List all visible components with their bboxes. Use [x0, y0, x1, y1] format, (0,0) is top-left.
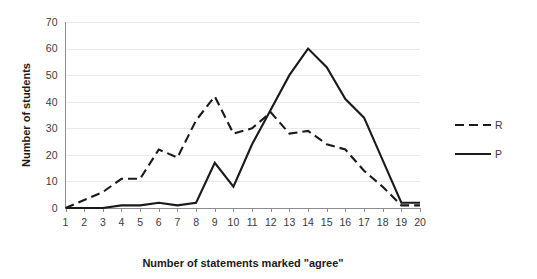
x-tick-label: 12 [265, 216, 277, 228]
x-tick-label: 2 [81, 216, 87, 228]
x-tick-label: 19 [395, 216, 407, 228]
x-tick-label: 10 [228, 216, 240, 228]
y-tick-label: 60 [46, 42, 58, 54]
chart-container: 010203040506070 123456789101112131415161… [0, 0, 537, 279]
chart-background [0, 0, 537, 279]
y-tick-label: 70 [46, 16, 58, 28]
y-tick-label: 30 [46, 122, 58, 134]
x-tick-label: 4 [119, 216, 125, 228]
y-axis-title: Number of students [20, 63, 32, 167]
y-tick-label: 10 [46, 175, 58, 187]
x-tick-label: 13 [284, 216, 296, 228]
legend-label-r: R [495, 119, 503, 131]
y-tick-label: 20 [46, 149, 58, 161]
x-tick-label: 15 [321, 216, 333, 228]
x-tick-label: 9 [212, 216, 218, 228]
y-tick-label: 0 [52, 202, 58, 214]
y-tick-label: 40 [46, 96, 58, 108]
legend-label-p: P [495, 148, 502, 160]
x-tick-label: 20 [414, 216, 426, 228]
line-chart: 010203040506070 123456789101112131415161… [0, 0, 537, 279]
y-tick-label: 50 [46, 69, 58, 81]
x-tick-label: 18 [377, 216, 389, 228]
x-axis-title: Number of statements marked "agree" [142, 257, 343, 269]
x-tick-label: 6 [156, 216, 162, 228]
x-tick-label: 14 [302, 216, 314, 228]
x-tick-label: 5 [137, 216, 143, 228]
x-tick-label: 16 [340, 216, 352, 228]
x-tick-label: 1 [63, 216, 69, 228]
x-tick-label: 3 [100, 216, 106, 228]
x-tick-label: 11 [247, 216, 258, 228]
x-tick-label: 7 [175, 216, 181, 228]
x-tick-label: 8 [193, 216, 199, 228]
x-tick-label: 17 [358, 216, 370, 228]
